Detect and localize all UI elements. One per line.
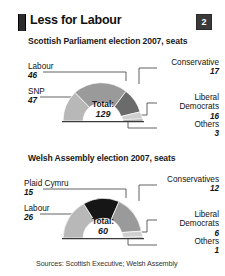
label-plaid-cymru-welsh: Plaid Cymru 15 — [24, 179, 69, 198]
title-accent-bar — [18, 14, 26, 31]
sources-note: Sources: Scottish Executive; Welsh Assem… — [36, 259, 177, 268]
label-labour-scottish: Labour 46 — [28, 62, 54, 81]
label-conservatives-welsh: Conservatives 12 — [167, 175, 219, 194]
header: Less for Labour 2 — [0, 13, 225, 35]
label-conservative-scottish: Conservative 17 — [171, 58, 219, 77]
label-others-welsh: Others 1 — [194, 237, 219, 256]
chart-subtitle-scottish: Scottish Parliament election 2007, seats — [28, 36, 187, 46]
total-welsh: Total: 60 — [75, 217, 131, 236]
total-scottish: Total: 129 — [75, 100, 131, 119]
label-labour-welsh: Labour 26 — [24, 204, 50, 223]
infographic-panel: Less for Labour 2 Scottish Parliament el… — [0, 0, 225, 276]
label-libdem-scottish: Liberal Democrats 16 — [157, 93, 219, 121]
chart-subtitle-welsh: Welsh Assembly election 2007, seats — [28, 153, 175, 163]
chart-scottish-parliament: Labour 46 SNP 47 Conservative 17 Liberal… — [0, 48, 225, 144]
chart-welsh-assembly: Plaid Cymru 15 Labour 26 Conservatives 1… — [0, 165, 225, 261]
label-others-scottish: Others 3 — [194, 120, 219, 139]
chart-number-badge: 2 — [196, 14, 212, 30]
label-libdem-welsh: Liberal Democrats 6 — [157, 210, 219, 238]
page-title: Less for Labour — [30, 13, 121, 27]
label-snp-scottish: SNP 47 — [28, 87, 45, 106]
